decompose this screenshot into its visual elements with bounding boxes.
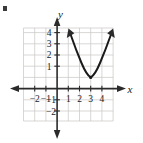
vertex-point xyxy=(89,76,92,79)
y-tick-label-neg2: −2 xyxy=(46,107,56,117)
y-axis-name: y xyxy=(57,8,63,20)
x-tick-label-2: 2 xyxy=(77,94,82,104)
y-tick-labels: 4 3 2 1 −1 −2 xyxy=(46,28,56,117)
x-tick-label-3: 3 xyxy=(88,94,93,104)
figure-container: −2 −1 1 2 3 4 4 3 2 1 −1 −2 x y xyxy=(0,0,143,143)
grid-lines xyxy=(24,28,114,121)
x-axis-name: x xyxy=(127,83,133,95)
y-tick-label-1: 1 xyxy=(47,62,52,72)
y-tick-label-2: 2 xyxy=(47,50,52,60)
x-tick-label-neg2: −2 xyxy=(30,94,40,104)
y-tick-label-neg1: −1 xyxy=(46,95,56,105)
y-axis-arrow-down-icon xyxy=(54,130,61,139)
x-axis-arrow-left-icon xyxy=(10,85,19,92)
x-tick-label-4: 4 xyxy=(100,94,105,104)
y-tick-label-4: 4 xyxy=(47,28,52,38)
y-tick-label-3: 3 xyxy=(47,39,52,49)
x-axis-arrow-right-icon xyxy=(117,85,126,92)
x-tick-label-1: 1 xyxy=(66,94,71,104)
coordinate-plot: −2 −1 1 2 3 4 4 3 2 1 −1 −2 x y xyxy=(0,0,143,143)
x-tick-labels: −2 −1 1 2 3 4 xyxy=(30,94,105,104)
